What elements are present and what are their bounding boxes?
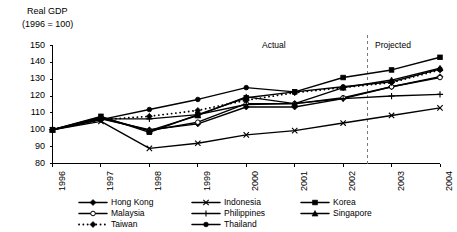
x-axis-tick-label: 1997 — [105, 170, 115, 190]
y-axis-tick-label: 110 — [19, 107, 45, 117]
legend-label: Taiwan — [111, 219, 137, 230]
x-axis-tick-label: 1999 — [202, 170, 212, 190]
series-taiwan — [50, 67, 444, 133]
legend-label: Korea — [333, 197, 356, 208]
series-indonesia — [50, 105, 443, 151]
y-axis-tick-label: 80 — [19, 158, 45, 168]
legend-key-plus-icon — [191, 208, 221, 219]
legend-label: Philippines — [224, 208, 265, 219]
legend-key-circle-filled-icon — [191, 219, 221, 230]
legend-key-circle-open-icon — [78, 208, 108, 219]
legend-label: Thailand — [224, 219, 257, 230]
x-axis-tick-label: 2000 — [250, 170, 260, 190]
chart-legend: Hong KongMalaysiaTaiwanIndonesiaPhilippi… — [78, 197, 418, 231]
y-axis-tick-label: 130 — [19, 73, 45, 83]
legend-key-square-filled-icon — [300, 197, 330, 208]
x-axis-tick-label: 1998 — [153, 170, 163, 190]
legend-label: Singapore — [333, 208, 372, 219]
x-axis-tick-label: 2003 — [396, 170, 406, 190]
y-axis-tick-label: 150 — [19, 40, 45, 50]
chart-figure: Real GDP (1996 = 100) Actual Projected 1… — [0, 0, 457, 232]
legend-key-diamond-filled-icon — [78, 219, 108, 230]
y-axis-tick-label: 140 — [19, 56, 45, 66]
x-axis-tick-label: 2002 — [347, 170, 357, 190]
y-axis-tick-label: 90 — [19, 141, 45, 151]
legend-label: Malaysia — [111, 208, 145, 219]
x-axis-tick-label: 2001 — [299, 170, 309, 190]
y-axis-tick-label: 100 — [19, 124, 45, 134]
legend-label: Hong Kong — [111, 197, 154, 208]
legend-label: Indonesia — [224, 197, 261, 208]
x-axis-tick-label: 1996 — [57, 170, 67, 190]
legend-key-diamond-filled-icon — [78, 197, 108, 208]
legend-key-x-icon — [191, 197, 221, 208]
x-axis-tick-label: 2004 — [444, 170, 454, 190]
legend-key-triangle-filled-icon — [300, 208, 330, 219]
y-axis-tick-label: 120 — [19, 90, 45, 100]
